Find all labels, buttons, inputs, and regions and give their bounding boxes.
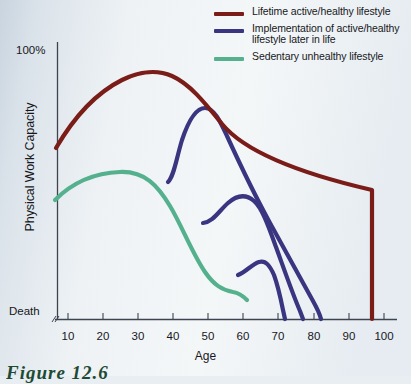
x-tick-label: 50 (193, 330, 223, 342)
legend-label-lifetime: Lifetime active/healthy lifestyle (252, 6, 391, 18)
x-tick-label: 60 (228, 330, 258, 342)
x-tick-label: 90 (334, 330, 364, 342)
legend-swatch-sedentary (214, 57, 244, 61)
series-line-implementation-branch-3 (238, 262, 285, 319)
x-tick-label: 20 (88, 330, 118, 342)
y-axis-title: Physical Work Capacity (23, 87, 37, 247)
legend-item-lifetime: Lifetime active/healthy lifestyle (214, 6, 410, 18)
legend-swatch-lifetime (214, 12, 244, 16)
x-tick-label: 70 (263, 330, 293, 342)
chart-legend: Lifetime active/healthy lifestyle Implem… (214, 6, 410, 67)
legend-item-sedentary: Sedentary unhealthy lifestyle (214, 51, 410, 63)
x-axis-title: Age (0, 349, 411, 363)
x-tick-label: 100 (369, 330, 399, 342)
series-line-implementation-branch-1 (168, 108, 321, 319)
x-tick-label: 40 (158, 330, 188, 342)
legend-item-implementation: Implementation of active/healthy lifesty… (214, 23, 410, 46)
series-line-sedentary (55, 172, 247, 300)
x-tick-label: 30 (123, 330, 153, 342)
legend-swatch-implementation (214, 29, 244, 33)
x-tick-marks (68, 313, 384, 319)
y-axis-bottom-label: Death (9, 305, 40, 317)
figure-caption: Figure 12.6 (6, 362, 109, 384)
x-tick-label: 10 (53, 330, 83, 342)
legend-label-sedentary: Sedentary unhealthy lifestyle (252, 51, 383, 63)
x-tick-label: 80 (299, 330, 329, 342)
y-axis-top-label: 100% (16, 44, 45, 56)
legend-label-implementation: Implementation of active/healthy lifesty… (252, 23, 410, 46)
